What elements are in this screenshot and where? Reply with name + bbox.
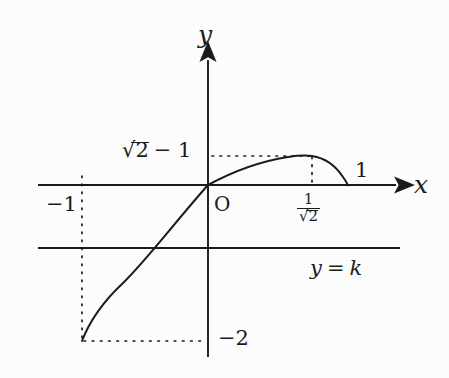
- figure-canvas: y x O √2 − 1 1 1 √2 −1 −2 y=k: [0, 0, 449, 378]
- sqrt-radical-group-denominator: √2: [299, 209, 318, 225]
- y-equals-k-y: y: [310, 256, 322, 280]
- x-axis-label: x: [414, 172, 428, 197]
- y-max-minus-one: − 1: [154, 138, 192, 162]
- y-bottom-endpoint-label: −2: [218, 328, 249, 349]
- sqrt-overbar-denominator: [306, 210, 318, 211]
- y-equals-k-label: y=k: [310, 258, 362, 279]
- sqrt-sign: √: [122, 140, 135, 161]
- x-peak-fraction-label: 1 √2: [297, 192, 320, 224]
- graph-svg: [0, 0, 449, 378]
- y-equals-k-k: k: [349, 256, 362, 280]
- y-equals-k-equals: =: [327, 256, 345, 280]
- sqrt-sign-denominator: √: [299, 209, 309, 225]
- origin-label: O: [214, 194, 230, 214]
- x-intercept-one-label: 1: [355, 160, 368, 181]
- fraction-numerator: 1: [297, 192, 320, 208]
- fraction-1-over-sqrt2: 1 √2: [297, 192, 320, 224]
- fraction-denominator: √2: [297, 208, 320, 225]
- sqrt-radical-group: √2: [122, 140, 149, 161]
- y-max-label: √2 − 1: [122, 140, 191, 161]
- x-left-endpoint-label: −1: [46, 194, 77, 215]
- y-axis-label: y: [198, 22, 212, 47]
- sqrt-overbar: [131, 142, 149, 143]
